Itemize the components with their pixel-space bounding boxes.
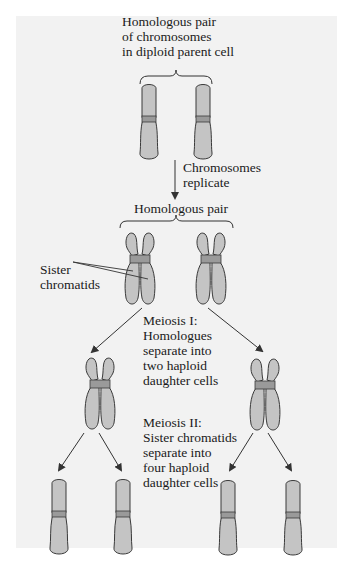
meiosis1-line4: two haploid	[143, 358, 207, 373]
meiosis2-line4: four haploid	[143, 460, 209, 475]
replicated-chromosome-left	[125, 233, 155, 304]
final-cell-4	[284, 481, 302, 556]
sister-chromatids-line1: Sister	[40, 262, 71, 277]
replicate-line1: Chromosomes	[183, 160, 261, 175]
parent-title-line3: in diploid parent cell	[122, 44, 234, 59]
meiosis1-line1: Meiosis I:	[143, 313, 197, 328]
final-cell-2	[114, 480, 132, 555]
homologous-bracket	[120, 215, 233, 228]
meiosis2-arrow-4	[268, 433, 291, 470]
meiosis2-line5: daughter cells	[143, 475, 218, 490]
meiosis1-arrow-left	[92, 308, 142, 352]
sister-pointer-1	[73, 262, 133, 271]
meiosis2-arrow-2	[99, 433, 121, 470]
replicate-line2: replicate	[183, 175, 229, 190]
meiosis2-line3: separate into	[143, 445, 212, 460]
meiosis2-line2: Sister chromatids	[143, 430, 237, 445]
parent-title-line2: of chromosomes	[122, 29, 212, 44]
meiosis2-line1: Meiosis II:	[143, 415, 202, 430]
meiosis1-arrow-right	[208, 308, 262, 351]
final-cell-1	[50, 480, 68, 555]
sister-chromatids-line2: chromatids	[40, 277, 100, 292]
parent-title-line1: Homologous pair	[122, 14, 216, 29]
meiosis1-line5: daughter cells	[143, 373, 218, 388]
parent-chromosome-left	[140, 85, 158, 160]
meiosis2-arrow-1	[59, 433, 84, 470]
parent-bracket	[140, 70, 212, 84]
homologous-pair-label: Homologous pair	[134, 201, 228, 216]
replicated-chromosome-right	[196, 233, 226, 304]
meiosis1-line2: Homologues	[143, 328, 212, 343]
meiosis1-line3: separate into	[143, 343, 212, 358]
final-cell-3	[219, 481, 237, 556]
haploid-cell-left	[85, 358, 115, 429]
parent-chromosome-right	[194, 85, 212, 160]
haploid-cell-right	[250, 359, 280, 430]
